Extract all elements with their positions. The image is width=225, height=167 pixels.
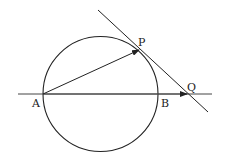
label-a: A [31, 97, 41, 110]
label-b: B [161, 97, 169, 110]
label-p: P [138, 36, 146, 49]
geometry-diagram: A B P Q [0, 0, 225, 167]
label-q: Q [187, 81, 196, 94]
